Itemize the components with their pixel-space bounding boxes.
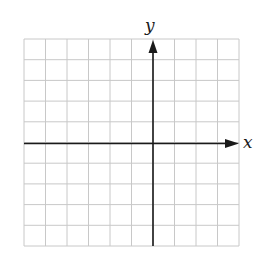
y-axis-label: y — [145, 17, 155, 34]
coordinate-plane — [0, 0, 261, 257]
x-axis-label: x — [243, 134, 253, 151]
y-axis-arrow-icon — [149, 40, 158, 53]
x-axis-arrow-icon — [225, 139, 239, 148]
grid-lines — [24, 39, 239, 246]
